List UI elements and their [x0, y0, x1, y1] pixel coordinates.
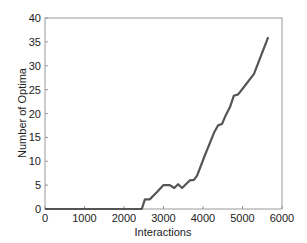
x-tick-label: 3000 — [151, 212, 175, 224]
y-tick-label: 40 — [29, 12, 41, 24]
x-tick-label: 6000 — [270, 212, 294, 224]
y-tick-label: 35 — [29, 36, 41, 48]
plot-area — [45, 18, 282, 209]
x-tick-label: 0 — [42, 212, 48, 224]
y-tick-label: 25 — [29, 84, 41, 96]
y-axis-title: Number of Optima — [16, 67, 28, 158]
x-tick-label: 2000 — [112, 212, 136, 224]
x-tick-label: 5000 — [230, 212, 254, 224]
x-tick-label: 4000 — [191, 212, 215, 224]
y-tick-label: 30 — [29, 60, 41, 72]
x-tick-label: 1000 — [72, 212, 96, 224]
y-tick-label: 10 — [29, 155, 41, 167]
x-axis-title: Interactions — [135, 226, 192, 238]
y-tick-label: 5 — [35, 179, 41, 191]
y-tick-label: 0 — [35, 203, 41, 215]
line-chart: 0510152025303540 01000200030004000500060… — [0, 0, 307, 243]
y-tick-label: 20 — [29, 108, 41, 120]
y-tick-label: 15 — [29, 131, 41, 143]
